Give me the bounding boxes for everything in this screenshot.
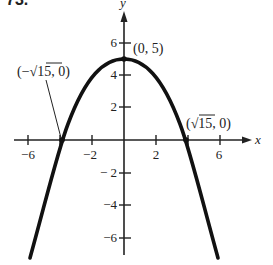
svg-text:−6: −6 [103, 230, 117, 245]
left-intercept-point [59, 137, 65, 143]
svg-text:−6: −6 [21, 147, 35, 162]
vertex-label: (0, 5) [133, 41, 164, 57]
svg-text:2: 2 [153, 147, 160, 162]
parabola-graph: 73. x y −6 −2 2 6 6 4 2 − 2 −4 −6 [0, 0, 273, 265]
right-intercept-point [183, 137, 189, 143]
svg-text:2: 2 [111, 99, 118, 114]
svg-text:−4: −4 [103, 197, 117, 212]
svg-text:−2: −2 [83, 147, 97, 162]
svg-text:− 2: − 2 [100, 165, 117, 180]
svg-text:(√15, 0): (√15, 0) [186, 116, 231, 132]
svg-text:6: 6 [216, 147, 223, 162]
y-axis-arrow-icon [121, 11, 128, 22]
svg-text:4: 4 [111, 67, 118, 82]
svg-text:6: 6 [111, 35, 118, 50]
x-axis-arrow-icon [242, 137, 252, 144]
y-axis-label: y [118, 0, 126, 10]
problem-number: 73. [6, 0, 28, 8]
svg-text:(−√15, 0): (−√15, 0) [17, 64, 70, 80]
vertex-point [121, 56, 127, 62]
x-axis-label: x [254, 132, 261, 147]
left-intercept-label: (−√15, 0) [17, 63, 70, 80]
left-label-leader-line [46, 80, 61, 138]
right-intercept-label: (√15, 0) [186, 115, 231, 132]
